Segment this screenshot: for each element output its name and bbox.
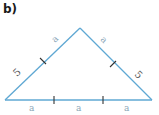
label-right-lower: 5 — [133, 69, 145, 81]
label-left-lower: 5 — [11, 66, 23, 78]
triangle-figure: b) a 5 a 5 a a a — [0, 0, 159, 115]
label-base-middle: a — [76, 103, 82, 113]
part-label: b) — [3, 2, 17, 16]
label-right-upper: a — [99, 34, 110, 45]
label-base-right: a — [124, 103, 130, 113]
label-left-upper: a — [49, 33, 60, 44]
right-side — [80, 28, 152, 100]
label-base-left: a — [29, 103, 35, 113]
triangle-diagram: a 5 a 5 a a a — [0, 0, 159, 115]
left-side — [5, 28, 80, 100]
